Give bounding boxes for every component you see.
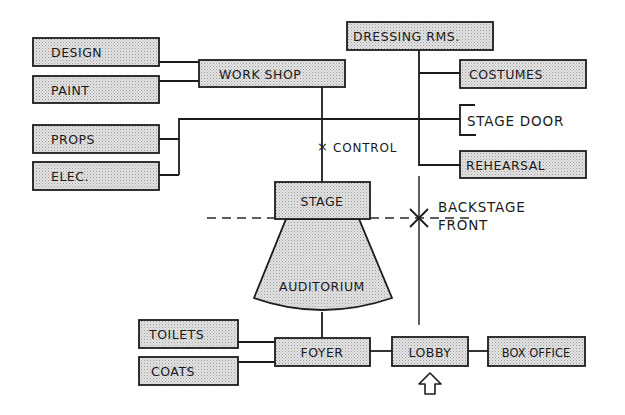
node-design: DESIGN bbox=[33, 38, 159, 66]
node-paint: PAINT bbox=[33, 76, 159, 103]
node-foyer: FOYER bbox=[275, 338, 370, 366]
node-dressing-rooms: DRESSING RMS. bbox=[347, 22, 493, 50]
edge-dressing-rehearsal bbox=[419, 50, 460, 165]
control-x-marker-icon: × bbox=[317, 139, 329, 154]
control-annotation: × CONTROL bbox=[317, 139, 397, 155]
dressing-rooms-label: DRESSING RMS. bbox=[353, 29, 460, 44]
foyer-label: FOYER bbox=[300, 345, 343, 360]
auditorium-label: AUDITORIUM bbox=[279, 279, 365, 294]
node-costumes: COSTUMES bbox=[460, 60, 586, 88]
toilets-label: TOILETS bbox=[148, 327, 204, 342]
elec-label: ELEC. bbox=[51, 169, 89, 184]
props-label: PROPS bbox=[51, 132, 95, 147]
node-props: PROPS bbox=[33, 125, 159, 153]
entrance-arrow-icon bbox=[419, 373, 441, 394]
backstage-label: BACKSTAGE bbox=[438, 199, 526, 215]
node-box-office: BOX OFFICE bbox=[488, 337, 585, 366]
workshop-label: WORK SHOP bbox=[219, 67, 301, 82]
edge-props-elec-stagedoor bbox=[159, 119, 460, 175]
costumes-label: COSTUMES bbox=[469, 67, 543, 82]
node-workshop: WORK SHOP bbox=[199, 60, 345, 87]
stage-door-label: STAGE DOOR bbox=[467, 113, 564, 129]
node-elec: ELEC. bbox=[33, 162, 159, 190]
front-label: FRONT bbox=[438, 217, 488, 233]
stage-label: STAGE bbox=[300, 194, 343, 209]
node-rehearsal: REHEARSAL bbox=[460, 151, 586, 178]
node-lobby: LOBBY bbox=[392, 337, 468, 366]
node-stage-door: STAGE DOOR bbox=[467, 113, 564, 129]
rehearsal-label: REHEARSAL bbox=[466, 158, 545, 173]
node-toilets: TOILETS bbox=[139, 320, 238, 348]
box-office-label: BOX OFFICE bbox=[502, 346, 571, 360]
diagram-svg: AUDITORIUM DESIGN PAINT WORK SHOP PROPS … bbox=[0, 0, 625, 415]
theatre-diagram: AUDITORIUM DESIGN PAINT WORK SHOP PROPS … bbox=[0, 0, 625, 415]
backstage-front-annotation: BACKSTAGE FRONT bbox=[438, 199, 526, 233]
lobby-label: LOBBY bbox=[409, 345, 452, 360]
design-label: DESIGN bbox=[51, 45, 102, 60]
node-auditorium: AUDITORIUM bbox=[254, 219, 392, 310]
coats-label: COATS bbox=[151, 364, 195, 379]
control-label: CONTROL bbox=[333, 141, 397, 155]
node-coats: COATS bbox=[139, 357, 238, 385]
paint-label: PAINT bbox=[51, 83, 89, 98]
node-stage: STAGE bbox=[275, 182, 370, 219]
